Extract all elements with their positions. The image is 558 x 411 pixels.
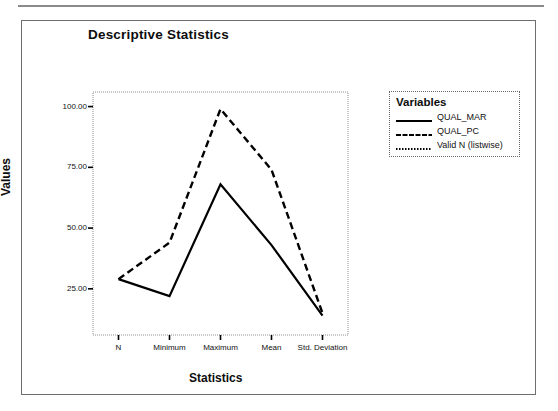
axis-ticks [88,107,323,340]
legend-item: QUAL_PC [396,124,514,138]
legend-key-dashed-line-icon [396,126,432,136]
series-line-qual-mar [119,184,323,315]
legend-title: Variables [396,95,514,109]
legend-item-label: QUAL_MAR [437,112,487,123]
x-tick-label: Std. Deviation [278,343,368,352]
y-tick-label: 50.00 [40,223,87,232]
y-tick-label: 25.00 [40,284,87,293]
legend-item: QUAL_MAR [396,110,514,124]
legend-key-solid-line-icon [396,112,432,122]
y-axis-title: Values [0,158,13,196]
y-tick-label: 75.00 [40,162,87,171]
x-axis-title: Statistics [189,371,242,385]
legend-item-label: Valid N (listwise) [437,140,503,151]
legend-entries: QUAL_MARQUAL_PCValid N (listwise) [396,110,514,152]
series-line-qual-pc [119,109,323,313]
data-series-group [119,109,323,316]
y-tick-label: 100.00 [40,102,87,111]
legend-key-dotted-line-icon [396,140,432,150]
legend-item: Valid N (listwise) [396,138,514,152]
legend-item-label: QUAL_PC [437,126,479,137]
legend: Variables QUAL_MARQUAL_PCValid N (listwi… [389,91,520,157]
